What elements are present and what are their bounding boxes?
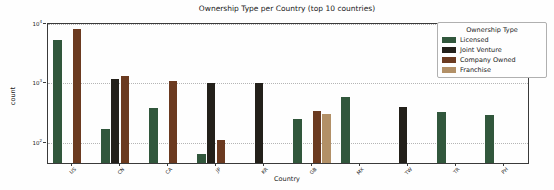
category-KR: [240, 24, 288, 163]
x-tick-label-US: US: [68, 166, 77, 175]
bar-CN-company-owned: [121, 76, 130, 163]
x-tick-label-KR: KR: [260, 166, 269, 175]
bar-US-company-owned: [73, 29, 82, 163]
y-tick-label: 104: [32, 19, 42, 27]
legend-swatch: [442, 37, 456, 43]
legend-item-franchise: Franchise: [442, 66, 542, 74]
bar-US-licensed: [53, 40, 62, 163]
legend-title: Ownership Type: [442, 26, 542, 34]
x-tick-mark: [215, 163, 216, 166]
bar-GB-company-owned: [313, 111, 322, 163]
legend-swatch: [442, 67, 456, 73]
bar-KR-joint-venture: [255, 83, 264, 163]
y-tick-mark: [43, 82, 46, 83]
x-tick-label-JP: JP: [214, 166, 221, 173]
legend-item-licensed: Licensed: [442, 36, 542, 44]
legend-swatch: [442, 57, 456, 63]
bar-TR-licensed: [437, 112, 446, 163]
bar-TW-joint-venture: [399, 107, 408, 163]
x-tick-label-PH: PH: [500, 166, 509, 175]
y-axis-label: count: [9, 87, 17, 105]
bar-CA-company-owned: [169, 81, 178, 163]
legend-label: Franchise: [460, 66, 491, 74]
category-TW: [384, 24, 432, 163]
chart-canvas: Ownership Type per Country (top 10 count…: [0, 0, 554, 190]
bar-CN-licensed: [101, 129, 110, 163]
bar-CN-joint-venture: [111, 79, 120, 163]
bar-JP-joint-venture: [207, 83, 216, 163]
x-tick-label-CN: CN: [116, 166, 125, 175]
legend: Ownership Type LicensedJoint VentureComp…: [437, 22, 547, 78]
legend-label: Company Owned: [460, 56, 516, 64]
bar-GB-franchise: [322, 114, 331, 163]
bar-JP-company-owned: [217, 140, 226, 163]
category-US: [48, 24, 96, 163]
category-MX: [336, 24, 384, 163]
x-axis-label: Country: [47, 175, 527, 183]
legend-label: Joint Venture: [460, 46, 502, 54]
bar-GB-licensed: [293, 119, 302, 163]
category-CN: [96, 24, 144, 163]
bar-CA-licensed: [149, 108, 158, 163]
x-tick-label-CA: CA: [164, 166, 173, 175]
y-tick-label: 103: [32, 78, 42, 86]
bar-JP-licensed: [197, 154, 206, 163]
y-tick-mark: [43, 142, 46, 143]
bar-MX-licensed: [341, 97, 350, 163]
category-GB: [288, 24, 336, 163]
legend-item-joint-venture: Joint Venture: [442, 46, 542, 54]
y-tick-label: 102: [32, 138, 42, 146]
chart-title: Ownership Type per Country (top 10 count…: [47, 4, 527, 13]
y-tick-mark: [43, 23, 46, 24]
x-tick-label-TR: TR: [452, 166, 461, 175]
legend-items: LicensedJoint VentureCompany OwnedFranch…: [442, 36, 542, 74]
legend-label: Licensed: [460, 36, 489, 44]
legend-item-company-owned: Company Owned: [442, 56, 542, 64]
x-tick-label-GB: GB: [308, 166, 317, 175]
category-JP: [192, 24, 240, 163]
legend-swatch: [442, 47, 456, 53]
bar-PH-licensed: [485, 115, 494, 163]
category-CA: [144, 24, 192, 163]
